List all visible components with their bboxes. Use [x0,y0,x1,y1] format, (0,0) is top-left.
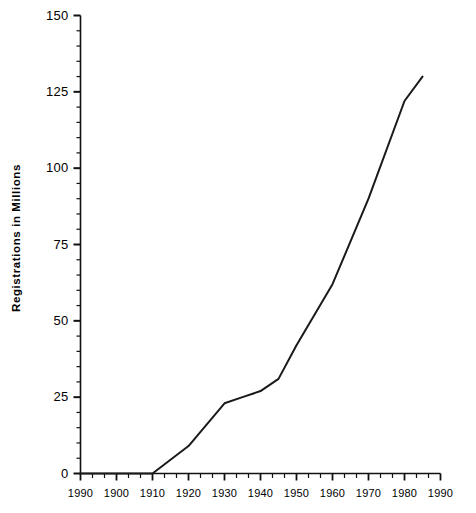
y-tick-label: 150 [15,8,69,23]
axis-ticks [74,16,441,481]
data-series [81,77,423,474]
y-tick-label: 75 [15,237,69,252]
y-tick-label: 25 [15,389,69,404]
x-tick-label: 1990 [418,487,464,499]
line-chart: Registrations in Millions 02550751001251… [0,0,476,513]
y-tick-label: 125 [15,84,69,99]
y-tick-label: 100 [15,160,69,175]
series-line [81,77,423,474]
axes [81,16,441,474]
plot-area [0,0,476,513]
y-tick-label: 50 [15,313,69,328]
y-tick-label: 0 [15,466,69,481]
